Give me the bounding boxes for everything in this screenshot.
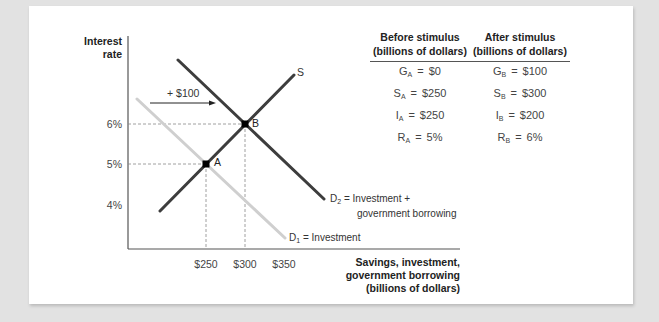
shift-arrow-head bbox=[209, 101, 216, 106]
cell-i-a: IA=$250 bbox=[370, 106, 470, 128]
y-tick-4pct: 4% bbox=[90, 199, 122, 211]
d2-curve-label: D2 = Investment + government borrowing bbox=[330, 193, 457, 220]
table-row-g: GA=$0 GB=$100 bbox=[370, 62, 570, 84]
y-axis-title: Interest rate bbox=[60, 35, 122, 61]
y-tick-6pct: 6% bbox=[90, 118, 122, 130]
cell-s-a: SA=$250 bbox=[370, 84, 470, 106]
header-after-line2: (billions of dollars) bbox=[470, 44, 570, 58]
d2-text-line2: government borrowing bbox=[330, 208, 457, 220]
x-axis-title: Savings, investment, government borrowin… bbox=[330, 256, 460, 295]
d2-curve bbox=[178, 60, 324, 199]
x-tick-300: $300 bbox=[225, 258, 265, 270]
point-a-marker bbox=[203, 161, 210, 168]
x-axis-title-line2: government borrowing bbox=[330, 269, 460, 282]
cell-s-b: SB=$300 bbox=[470, 84, 570, 106]
point-b-marker bbox=[242, 121, 249, 128]
header-after-line1: After stimulus bbox=[470, 30, 570, 44]
y-tick-5pct: 5% bbox=[90, 158, 122, 170]
cell-g-b: GB=$100 bbox=[470, 62, 570, 84]
header-before-line1: Before stimulus bbox=[370, 30, 470, 44]
x-axis-title-line3: (billions of dollars) bbox=[330, 282, 460, 295]
d1-curve-label: D1 = Investment bbox=[289, 232, 360, 247]
header-before-line2: (billions of dollars) bbox=[370, 44, 470, 58]
d2-text: = Investment + bbox=[341, 193, 410, 204]
x-tick-250: $250 bbox=[186, 258, 226, 270]
d1-text: = Investment bbox=[300, 232, 360, 243]
table-row-i: IA=$250 IB=$200 bbox=[370, 106, 570, 128]
header-after: After stimulus (billions of dollars) bbox=[470, 30, 570, 58]
y-axis-title-line1: Interest bbox=[60, 35, 122, 48]
table-row-s: SA=$250 SB=$300 bbox=[370, 84, 570, 106]
table-header: Before stimulus (billions of dollars) Af… bbox=[370, 30, 570, 62]
table-row-r: RA=5% RB=6% bbox=[370, 128, 570, 150]
point-b-label: B bbox=[252, 117, 259, 129]
d1-curve bbox=[137, 99, 285, 238]
x-tick-350: $350 bbox=[264, 258, 304, 270]
header-before: Before stimulus (billions of dollars) bbox=[370, 30, 470, 58]
s-curve-label: S bbox=[297, 66, 304, 78]
cell-r-a: RA=5% bbox=[370, 128, 470, 150]
cell-r-b: RB=6% bbox=[470, 128, 570, 150]
point-a-label: A bbox=[214, 156, 221, 168]
cell-g-a: GA=$0 bbox=[370, 62, 470, 84]
x-axis-title-line1: Savings, investment, bbox=[330, 256, 460, 269]
cell-i-b: IB=$200 bbox=[470, 106, 570, 128]
stimulus-table: Before stimulus (billions of dollars) Af… bbox=[370, 30, 659, 150]
shift-label: + $100 bbox=[167, 87, 199, 99]
y-axis-title-line2: rate bbox=[60, 48, 122, 61]
